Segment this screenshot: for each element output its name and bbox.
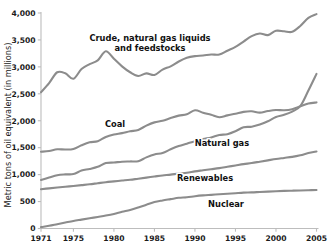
x-tick-label: 1990	[184, 234, 205, 243]
x-tick-label: 1971	[30, 234, 51, 243]
y-tick-label: 1,500	[11, 143, 35, 152]
y-tick-label: 4,000	[11, 9, 35, 18]
series-label-crude-natural-gas-liquids-and-feedstocks: Crude, natural gas liquids	[89, 33, 210, 43]
y-axis-title: Metric tons of oil equivalent (in millio…	[3, 43, 13, 208]
x-axis-tick-labels: 19711975198019851990199520002005	[30, 234, 327, 243]
series-line-natural-gas	[41, 74, 317, 180]
chart-container: 05001,0001,5002,0002,5003,0003,5004,000 …	[0, 0, 328, 249]
y-tick-label: 1,000	[11, 170, 35, 179]
series-label-natural-gas: Natural gas	[195, 138, 249, 148]
x-tick-label: 1985	[144, 234, 165, 243]
series-line-crude-natural-gas-liquids-and-feedstocks	[41, 14, 317, 92]
series-label-coal: Coal	[105, 119, 125, 129]
series-line-nuclear	[41, 190, 317, 227]
x-tick-label: 1980	[103, 234, 124, 243]
y-tick-label: 500	[20, 197, 36, 206]
y-axis-tick-labels: 05001,0001,5002,0002,5003,0003,5004,000	[11, 9, 35, 234]
y-tick-label: 3,500	[11, 36, 35, 45]
line-chart: 05001,0001,5002,0002,5003,0003,5004,000 …	[0, 0, 328, 249]
y-tick-label: 2,500	[11, 90, 35, 99]
series-line-coal	[41, 102, 317, 151]
x-tick-label: 1995	[225, 234, 246, 243]
series-label-crude-natural-gas-liquids-and-feedstocks: and feedstocks	[114, 43, 185, 53]
y-tick-label: 2,000	[11, 117, 35, 126]
x-tick-label: 2005	[306, 234, 327, 243]
x-tick-label: 1975	[63, 234, 84, 243]
y-tick-label: 0	[30, 224, 35, 233]
series-label-nuclear: Nuclear	[208, 199, 245, 209]
series-label-renewables: Renewables	[177, 173, 233, 183]
y-tick-label: 3,000	[11, 63, 35, 72]
x-tick-label: 2000	[265, 234, 286, 243]
